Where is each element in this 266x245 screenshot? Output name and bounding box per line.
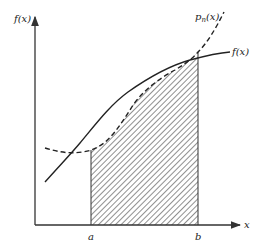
shaded-area: [91, 52, 198, 225]
a-label: a: [88, 231, 94, 242]
x-axis-label: x: [244, 219, 250, 230]
integral-diagram: f(x) x f(x) pn(x) a b: [0, 0, 266, 245]
f-curve-label: f(x): [231, 46, 249, 57]
b-label: b: [195, 231, 201, 242]
y-axis-label: f(x): [13, 13, 31, 24]
pn-curve-label: pn(x): [195, 11, 219, 24]
